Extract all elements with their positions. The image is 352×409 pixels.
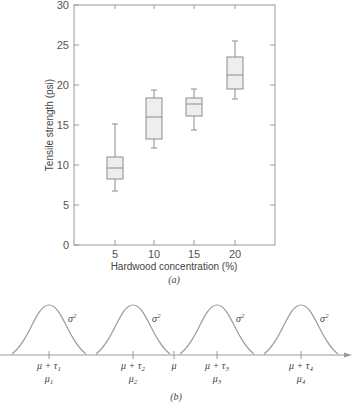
y-axis (74, 5, 275, 245)
figure: 0 5 10 15 20 25 30 5 10 15 20 Hardwood c… (0, 0, 352, 409)
panel-a-boxplot: 0 5 10 15 20 25 30 5 10 15 20 Hardwood c… (44, 0, 275, 286)
box-15-percent (186, 89, 202, 130)
treatment-mean-label-1: μ + τ1 (36, 360, 61, 373)
y-tick-label: 15 (57, 119, 69, 131)
panel-b-distributions: σ2 σ2 σ2 σ2 μ μ + τ1 μ1 μ + τ2 μ2 μ + τ3… (0, 305, 352, 403)
plot-frame (74, 5, 275, 245)
axis-arrow-icon (344, 353, 352, 358)
x-tick-label: 5 (112, 248, 118, 260)
variance-label: σ2 (68, 312, 77, 324)
mu-label-3: μ3 (212, 373, 222, 386)
treatment-mean-label-2: μ + τ2 (120, 360, 145, 373)
treatment-mean-label-4: μ + τ4 (288, 360, 313, 373)
y-tick-label: 25 (57, 39, 69, 51)
treatment-mean-label-3: μ + τ3 (204, 360, 229, 373)
mu-label-4: μ4 (296, 373, 306, 386)
variance-label: σ2 (152, 312, 161, 324)
mu-label-2: μ2 (128, 373, 138, 386)
x-tick-label: 10 (148, 248, 160, 260)
panel-b-caption: (b) (170, 391, 182, 403)
x-tick-label: 20 (229, 248, 241, 260)
mu-label-1: μ1 (44, 373, 54, 386)
grand-mean-label: μ (170, 360, 176, 371)
y-tick-label: 20 (57, 79, 69, 91)
y-axis-label: Tensile strength (psi) (44, 79, 55, 171)
x-axis-label: Hardwood concentration (%) (111, 261, 238, 272)
y-tick-label: 0 (63, 239, 69, 251)
y-tick-label: 30 (57, 0, 69, 11)
box-20-percent (227, 41, 243, 99)
y-tick-label: 10 (57, 159, 69, 171)
box-5-percent (107, 124, 123, 191)
variance-label: σ2 (320, 312, 329, 324)
x-tick-label: 15 (188, 248, 200, 260)
variance-label: σ2 (236, 312, 245, 324)
box-10-percent (146, 90, 162, 148)
panel-a-caption: (a) (168, 274, 180, 286)
y-tick-label: 5 (63, 199, 69, 211)
